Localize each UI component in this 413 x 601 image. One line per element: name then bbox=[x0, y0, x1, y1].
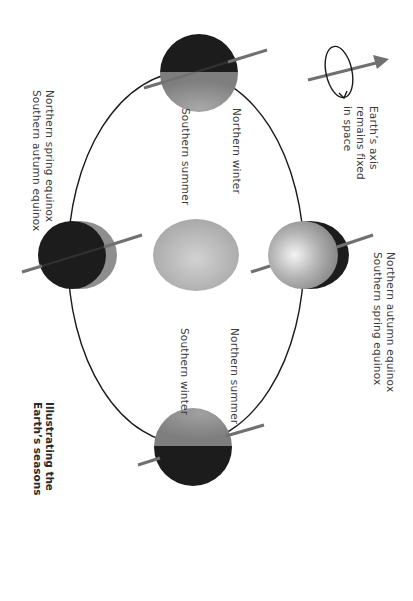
earth-northern-summer-icon bbox=[138, 405, 264, 491]
svg-text:Southern spring equinox: Southern spring equinox bbox=[372, 252, 384, 385]
svg-text:Earth’s seasons: Earth’s seasons bbox=[32, 402, 44, 495]
svg-text:Northern spring equinox: Northern spring equinox bbox=[44, 90, 56, 222]
diagram-title: Illustrating the Earth’s seasons bbox=[32, 402, 56, 495]
top-south-label: Southern summer bbox=[180, 108, 192, 206]
axis-note-label: Earth’s axis remains fixed in space bbox=[342, 106, 380, 180]
bottom-north-label: Northern summer bbox=[229, 328, 241, 425]
sun-icon bbox=[153, 219, 239, 291]
svg-text:Northern summer: Northern summer bbox=[229, 328, 241, 425]
svg-text:in space: in space bbox=[342, 106, 354, 151]
top-north-label: Northern winter bbox=[231, 108, 243, 194]
svg-text:Northern autumn equinox: Northern autumn equinox bbox=[385, 252, 397, 392]
earth-northern-winter-icon bbox=[144, 30, 267, 117]
fixed-axis-icon bbox=[308, 44, 389, 100]
bottom-south-label: Southern winter bbox=[179, 328, 191, 416]
earth-seasons-diagram: Earth’s axis remains fixed in space Nort… bbox=[0, 0, 413, 601]
svg-text:Illustrating the: Illustrating the bbox=[44, 402, 56, 491]
svg-text:remains fixed: remains fixed bbox=[355, 106, 367, 180]
svg-text:Earth’s axis: Earth’s axis bbox=[368, 106, 380, 170]
svg-text:Northern winter: Northern winter bbox=[231, 108, 243, 194]
right-equinox-label: Northern autumn equinox Southern spring … bbox=[372, 252, 397, 392]
svg-text:Southern summer: Southern summer bbox=[180, 108, 192, 206]
left-equinox-label: Northern spring equinox Southern autumn … bbox=[31, 90, 56, 231]
svg-text:Southern autumn equinox: Southern autumn equinox bbox=[31, 90, 43, 231]
svg-text:Southern winter: Southern winter bbox=[179, 328, 191, 416]
earth-northern-autumn-equinox-icon bbox=[251, 221, 373, 289]
